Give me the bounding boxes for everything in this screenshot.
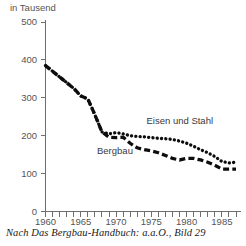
chart-figure: in Tausend 0100200300400500 196019651970… <box>0 0 246 246</box>
y-axis-tick-label: 200 <box>21 130 37 141</box>
series-label-eisen-und-stahl: Eisen und Stahl <box>147 115 214 126</box>
line-chart-svg: in Tausend 0100200300400500 196019651970… <box>0 0 246 226</box>
y-axis-tick-label: 100 <box>21 168 37 179</box>
y-axis-unit-label: in Tausend <box>10 2 56 13</box>
x-axis-tick-label: 1965 <box>70 216 91 226</box>
series-label-bergbau: Bergbau <box>97 145 133 156</box>
figure-caption: Nach Das Bergbau-Handbuch: a.a.O., Bild … <box>6 227 244 238</box>
y-axis-tick-marks <box>41 22 46 212</box>
y-axis-tick-labels: 0100200300400500 <box>21 16 37 217</box>
y-axis-tick-label: 400 <box>21 54 37 65</box>
x-axis-tick-labels: 196019651970197519801985 <box>35 216 233 226</box>
x-axis-tick-label: 1985 <box>211 216 232 226</box>
y-axis-tick-label: 300 <box>21 92 37 103</box>
y-axis-tick-label: 500 <box>21 16 37 27</box>
chart-plot-area: in Tausend 0100200300400500 196019651970… <box>0 0 246 226</box>
x-axis-tick-label: 1970 <box>105 216 126 226</box>
x-axis-tick-label: 1975 <box>141 216 162 226</box>
x-axis-tick-label: 1980 <box>176 216 197 226</box>
x-axis-tick-label: 1960 <box>35 216 56 226</box>
